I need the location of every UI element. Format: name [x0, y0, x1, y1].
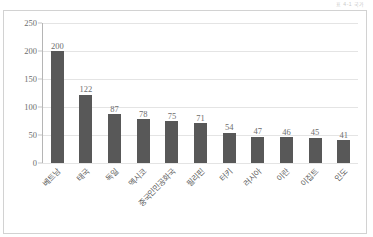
x-axis-category-label: 베트남 [42, 168, 63, 189]
bar-slot: 87독일 [100, 23, 129, 163]
bars-group: 200베트남122태국87독일78멕시코75중국인민공화국71필리핀54터키47… [43, 23, 358, 163]
bar[interactable] [51, 51, 64, 163]
x-axis-category-label: 필리핀 [186, 168, 207, 189]
bar[interactable] [194, 123, 207, 163]
x-axis-category-label: 이란 [277, 168, 293, 184]
x-axis-category-label: 독일 [105, 168, 121, 184]
y-axis-tick-label: 200 [24, 46, 37, 56]
bar[interactable] [165, 121, 178, 163]
y-axis-tick-label: 100 [24, 102, 37, 112]
y-axis-tick-label: 50 [29, 130, 38, 140]
bar-value-label: 41 [339, 131, 348, 140]
x-axis-category-label: 인도 [334, 168, 350, 184]
x-axis-category-label: 터키 [219, 168, 235, 184]
bar[interactable] [137, 119, 150, 163]
bar-slot: 41인도 [329, 23, 358, 163]
chart-frame: 050100150200250 200베트남122태국87독일78멕시코75중국… [3, 10, 367, 234]
x-axis-category-label: 이집트 [300, 168, 321, 189]
bar-value-label: 87 [110, 105, 119, 114]
bar-value-label: 45 [311, 128, 320, 137]
bar-value-label: 47 [254, 127, 263, 136]
bar-slot: 200베트남 [43, 23, 72, 163]
bar-slot: 71필리핀 [186, 23, 215, 163]
bar[interactable] [79, 95, 92, 163]
y-axis-tick-label: 150 [24, 74, 37, 84]
bar[interactable] [223, 133, 236, 163]
bar[interactable] [309, 138, 322, 163]
gridline [42, 163, 358, 164]
x-axis-category-label: 멕시코 [128, 168, 149, 189]
x-axis-category-label: 태국 [76, 168, 92, 184]
bar-value-label: 200 [51, 42, 64, 51]
bar[interactable] [337, 140, 350, 163]
x-axis-category-label: 러시아 [243, 168, 264, 189]
bar-value-label: 46 [282, 128, 291, 137]
header-corner-text: 표 4-1 국가 [336, 0, 365, 7]
bar-slot: 54터키 [215, 23, 244, 163]
header-strip: 표 4-1 국가 [0, 0, 373, 10]
y-axis-tick-label: 0 [33, 158, 37, 168]
bar[interactable] [280, 137, 293, 163]
bar-value-label: 54 [225, 123, 234, 132]
bar-value-label: 71 [196, 114, 205, 123]
bar-slot: 45이집트 [301, 23, 330, 163]
bar-slot: 46이란 [272, 23, 301, 163]
plot-area: 050100150200250 200베트남122태국87독일78멕시코75중국… [42, 23, 358, 163]
bar-slot: 75중국인민공화국 [158, 23, 187, 163]
bar-value-label: 122 [80, 85, 93, 94]
bar-value-label: 78 [139, 110, 148, 119]
bar[interactable] [251, 137, 264, 163]
bar-slot: 122태국 [72, 23, 101, 163]
y-axis-tick-label: 250 [24, 18, 37, 28]
plot-wrapper: 050100150200250 200베트남122태국87독일78멕시코75중국… [4, 11, 366, 233]
bar-slot: 78멕시코 [129, 23, 158, 163]
bar-slot: 47러시아 [243, 23, 272, 163]
bar-value-label: 75 [168, 112, 177, 121]
bar[interactable] [108, 114, 121, 163]
